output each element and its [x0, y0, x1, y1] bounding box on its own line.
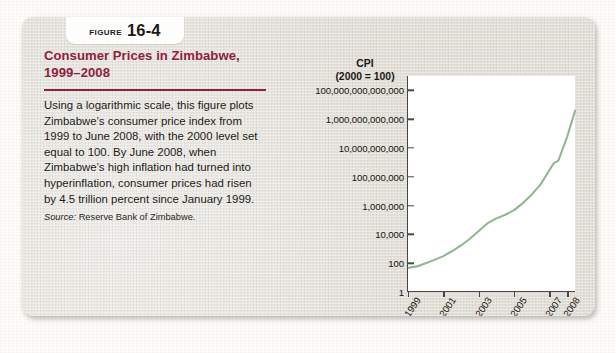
y-axis-tick-label: 1,000,000 — [362, 200, 404, 211]
y-axis-tick-label: 1 — [399, 287, 404, 298]
y-axis-tick — [408, 90, 414, 91]
y-axis-tick-labels: 100,000,000,000,0001,000,000,000,00010,0… — [260, 76, 404, 292]
x-axis-tick-label: 1999 — [402, 295, 423, 316]
y-axis-tick-label: 100,000,000,000,000 — [315, 85, 404, 96]
chart-area: CPI (2000 = 100) 100,000,000,000,0001,00… — [260, 57, 590, 307]
y-axis-tick — [408, 262, 414, 263]
title-divider — [44, 89, 266, 91]
figure-title: Consumer Prices in Zimbabwe, 1999–2008 — [44, 48, 266, 81]
x-axis-tick-labels: 199920012003200520072008 — [407, 295, 587, 316]
x-axis-tick-label: 2001 — [437, 295, 458, 316]
y-axis-title-line1: CPI — [306, 57, 424, 70]
cpi-line-chart — [408, 76, 576, 292]
y-axis-tick — [408, 176, 414, 177]
page-background: Figure 16-4 Consumer Prices in Zimbabwe,… — [0, 0, 616, 353]
figure-badge-word: Figure — [89, 25, 122, 37]
y-axis-tick — [408, 205, 414, 206]
figure-text-column: Consumer Prices in Zimbabwe, 1999–2008 U… — [44, 48, 266, 223]
source-label: Source: — [44, 212, 76, 222]
y-axis-tick-label: 1,000,000,000,000 — [326, 114, 404, 125]
y-axis-tick — [408, 147, 414, 148]
x-axis-tick-label: 2008 — [561, 295, 582, 316]
x-axis-tick-label: 2003 — [472, 295, 493, 316]
figure-source-line: Source: Reserve Bank of Zimbabwe. — [44, 211, 266, 223]
y-axis-tick-label: 10,000 — [375, 229, 404, 240]
figure-number-badge: Figure 16-4 — [66, 17, 184, 44]
figure-caption-text: Using a logarithmic scale, this figure p… — [44, 98, 266, 207]
y-axis-tick-label: 100 — [388, 258, 404, 269]
source-text: Reserve Bank of Zimbabwe. — [79, 212, 196, 222]
cpi-line-series — [408, 111, 575, 268]
x-axis-tick-label: 2005 — [508, 295, 529, 316]
plot-frame — [407, 76, 575, 292]
y-axis-tick — [408, 118, 414, 119]
figure-card: Figure 16-4 Consumer Prices in Zimbabwe,… — [22, 17, 595, 316]
figure-badge-number: 16-4 — [127, 21, 161, 40]
y-axis-tick-label: 10,000,000,000 — [339, 143, 404, 154]
y-axis-tick-label: 100,000,000 — [352, 171, 404, 182]
y-axis-tick — [408, 234, 414, 235]
